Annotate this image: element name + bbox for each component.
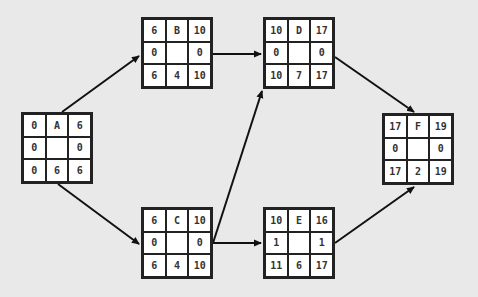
late-finish: 10	[188, 254, 211, 277]
early-finish: 19	[429, 115, 452, 138]
empty-center	[288, 232, 311, 255]
edge-a-c	[58, 184, 139, 244]
empty-center	[46, 137, 69, 160]
activity-label: C	[166, 209, 189, 232]
slack-right: 0	[188, 42, 211, 65]
early-start: 10	[265, 209, 288, 232]
late-start: 17	[384, 160, 407, 183]
node-e: 10 E 16 1 1 11 6 17	[263, 207, 335, 279]
slack-left: 0	[143, 232, 166, 255]
edge-a-b	[62, 56, 139, 112]
slack-right: 0	[310, 42, 333, 65]
late-finish: 17	[310, 64, 333, 87]
early-start: 6	[143, 19, 166, 42]
empty-center	[166, 232, 189, 255]
slack-left: 0	[143, 42, 166, 65]
late-start: 11	[265, 254, 288, 277]
late-start: 10	[265, 64, 288, 87]
slack-left: 0	[265, 42, 288, 65]
empty-center	[166, 42, 189, 65]
activity-label: F	[407, 115, 430, 138]
slack-right: 0	[429, 138, 452, 161]
early-finish: 16	[310, 209, 333, 232]
late-finish: 10	[188, 64, 211, 87]
activity-label: A	[46, 114, 69, 137]
duration: 7	[288, 64, 311, 87]
late-finish: 17	[310, 254, 333, 277]
early-finish: 10	[188, 209, 211, 232]
node-a: 0 A 6 0 0 0 6 6	[21, 112, 93, 184]
early-finish: 17	[310, 19, 333, 42]
slack-left: 0	[384, 138, 407, 161]
empty-center	[288, 42, 311, 65]
slack-left: 1	[265, 232, 288, 255]
late-start: 6	[143, 64, 166, 87]
duration: 6	[288, 254, 311, 277]
node-d: 10 D 17 0 0 10 7 17	[263, 17, 335, 89]
slack-right: 0	[188, 232, 211, 255]
slack-left: 0	[23, 137, 46, 160]
edge-c-d	[213, 91, 262, 243]
node-c: 6 C 10 0 0 6 4 10	[141, 207, 213, 279]
late-start: 0	[23, 159, 46, 182]
slack-right: 1	[310, 232, 333, 255]
early-finish: 6	[68, 114, 91, 137]
edge-e-f	[335, 187, 414, 243]
activity-label: B	[166, 19, 189, 42]
activity-label: D	[288, 19, 311, 42]
late-finish: 19	[429, 160, 452, 183]
empty-center	[407, 138, 430, 161]
early-start: 6	[143, 209, 166, 232]
late-finish: 6	[68, 159, 91, 182]
edge-d-f	[335, 57, 414, 112]
node-f: 17 F 19 0 0 17 2 19	[382, 113, 454, 185]
early-finish: 10	[188, 19, 211, 42]
duration: 6	[46, 159, 69, 182]
early-start: 17	[384, 115, 407, 138]
activity-label: E	[288, 209, 311, 232]
late-start: 6	[143, 254, 166, 277]
early-start: 0	[23, 114, 46, 137]
duration: 4	[166, 254, 189, 277]
slack-right: 0	[68, 137, 91, 160]
node-b: 6 B 10 0 0 6 4 10	[141, 17, 213, 89]
duration: 2	[407, 160, 430, 183]
early-start: 10	[265, 19, 288, 42]
duration: 4	[166, 64, 189, 87]
